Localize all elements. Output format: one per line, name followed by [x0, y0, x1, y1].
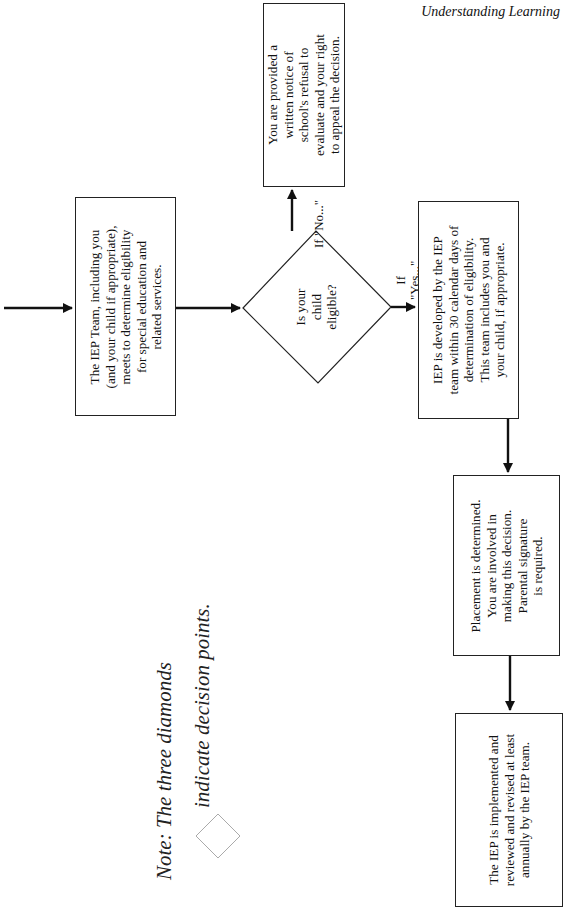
implemented-box: The IEP is implemented and reviewed and …	[455, 713, 563, 907]
note-line-2: indicate decision points.	[190, 603, 215, 808]
refusal-notice-box: You are provided a written notice of sch…	[263, 3, 345, 187]
placement-text: Placement is determined. You are involve…	[468, 477, 546, 655]
iep-team-text: The IEP Team, including you (and your ch…	[87, 199, 165, 414]
implemented-text: The IEP is implemented and reviewed and …	[486, 715, 533, 905]
placement-box: Placement is determined. You are involve…	[453, 475, 560, 656]
note-line-1: Note: The three diamonds	[152, 662, 177, 880]
iep-developed-text: IEP is developed by the IEP team within …	[430, 203, 508, 417]
iep-developed-box: IEP is developed by the IEP team within …	[418, 201, 519, 419]
iep-team-box: The IEP Team, including you (and your ch…	[75, 197, 176, 416]
refusal-notice-text: You are provided a written notice of sch…	[265, 5, 343, 185]
legend-diamond-icon	[196, 814, 240, 858]
decision-text: Is your child eligible?	[293, 267, 340, 347]
no-branch-label: If "No..."	[312, 200, 326, 248]
